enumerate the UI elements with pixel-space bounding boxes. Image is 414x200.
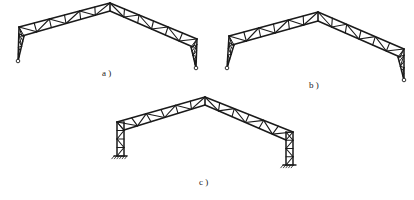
panel-label-b: b ) [309, 80, 319, 90]
panel-label-a: a ) [102, 68, 111, 78]
pin-support-icon [16, 59, 20, 63]
truss-frame-c [117, 97, 293, 165]
pin-support-icon [225, 66, 229, 70]
fixed-support-icon [112, 156, 127, 159]
truss-frame-a [16, 3, 198, 70]
pin-support-icon [402, 78, 406, 82]
truss-frame-b [225, 12, 406, 82]
truss-frames-diagram [0, 0, 414, 200]
fixed-support-icon [281, 165, 296, 168]
panel-label-c: c ) [199, 177, 208, 187]
pin-support-icon [194, 66, 198, 70]
